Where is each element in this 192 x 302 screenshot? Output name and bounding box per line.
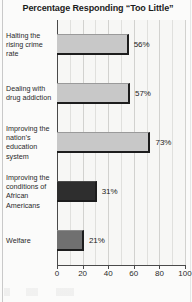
category-label: Dealing with drug addiction	[6, 84, 56, 103]
x-tick-label: 0	[55, 269, 59, 278]
bar-fill	[57, 132, 150, 153]
bar	[57, 34, 129, 55]
bar	[57, 132, 150, 153]
x-tick-label: 80	[155, 269, 164, 278]
x-tick-label: 100	[178, 269, 191, 278]
gridline	[185, 20, 186, 265]
x-tick-label: 20	[78, 269, 87, 278]
x-tick-label: 60	[129, 269, 138, 278]
bar-value-label: 57%	[135, 89, 151, 98]
bar	[57, 83, 130, 104]
bar-fill	[57, 34, 129, 55]
chart-title: Percentage Responding “Too Little”	[10, 3, 186, 13]
bar-fill	[57, 181, 97, 202]
bar-value-label: 73%	[155, 138, 171, 147]
category-label: Improving the nation’s education system	[6, 124, 56, 162]
bar-fill	[57, 230, 84, 251]
bar-value-label: 21%	[89, 236, 105, 245]
bottom-artifact	[4, 288, 124, 296]
bar-value-label: 56%	[134, 40, 150, 49]
x-tick-label: 40	[104, 269, 113, 278]
left-border-rule	[2, 0, 3, 302]
bar	[57, 230, 84, 251]
chart-figure: Percentage Responding “Too Little” Halti…	[0, 0, 192, 302]
bar-value-label: 31%	[102, 187, 118, 196]
gridline	[172, 20, 173, 265]
right-border-rule	[190, 0, 191, 302]
category-label: Halting the rising crime rate	[6, 31, 56, 59]
bar-fill	[57, 83, 130, 104]
category-label: Welfare	[6, 236, 56, 245]
x-axis-line	[57, 265, 186, 266]
bar	[57, 181, 97, 202]
category-label: Improving the conditions of African Amer…	[6, 173, 56, 211]
